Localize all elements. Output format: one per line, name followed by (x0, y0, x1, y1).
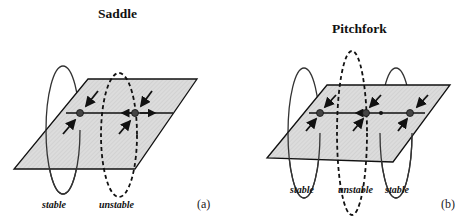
unstable-label: unstable (338, 184, 373, 195)
fixed-point-right (132, 110, 139, 117)
unstable-label: unstable (99, 199, 134, 210)
saddle-title: Saddle (98, 6, 137, 22)
fixed-point-right (407, 110, 414, 117)
saddle-panel: Saddle stable unstable (a) (0, 0, 240, 222)
pitchfork-title: Pitchfork (332, 21, 387, 37)
stable-label: stable (42, 199, 66, 210)
saddle-diagram (0, 0, 240, 222)
pitchfork-panel: Pitchfork stable unstable stable (b) (240, 0, 467, 222)
stable-label-right: stable (385, 184, 409, 195)
stable-label-left: stable (290, 184, 314, 195)
panel-tag-b: (b) (441, 197, 455, 212)
panel-tag-a: (a) (197, 197, 210, 212)
fixed-point-left (317, 110, 324, 117)
fixed-point-middle (363, 110, 370, 117)
fixed-point-left (77, 110, 84, 117)
